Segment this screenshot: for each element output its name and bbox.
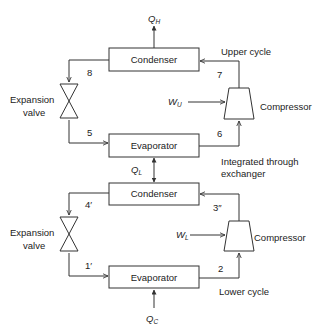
state-7: 7 [217,69,222,80]
state-1: 1′ [85,260,92,271]
exchanger-heat-label: QL [131,164,142,176]
state-2: 2 [218,263,223,274]
state-5: 5 [87,127,92,138]
exchanger-label-2: exchanger [221,168,265,179]
state-4: 4′ [85,199,92,210]
lower-cycle-label: Lower cycle [219,286,269,297]
upper-cycle-label: Upper cycle [221,46,271,57]
upper-evaporator-label: Evaporator [131,140,177,151]
upper-expansion-valve [60,84,78,118]
lower-compressor-label: Compressor [254,232,306,243]
upper-condenser-label: Condenser [131,54,177,65]
heat-in-label: QC [146,313,158,325]
state-8: 8 [87,67,92,78]
lower-compressor [224,221,254,251]
upper-valve-label-1: Expansion [10,94,54,105]
lower-expansion-valve [60,217,78,251]
lower-valve-label-1: Expansion [10,227,54,238]
work-upper-label: WU [168,96,182,108]
upper-compressor [224,88,254,119]
heat-out-label: QH [148,13,160,25]
state-6: 6 [217,128,222,139]
lower-evaporator-label: Evaporator [131,272,177,283]
work-lower-label: WL [176,229,189,241]
state-3: 3″ [213,202,222,213]
upper-compressor-label: Compressor [260,101,312,112]
exchanger-label-1: Integrated through [221,156,299,167]
cascade-refrigeration-diagram: QH Condenser 8 Expansion valve 5 Evapora… [0,0,320,333]
upper-valve-label-2: valve [23,107,45,118]
lower-valve-label-2: valve [23,240,45,251]
lower-condenser-label: Condenser [131,188,177,199]
